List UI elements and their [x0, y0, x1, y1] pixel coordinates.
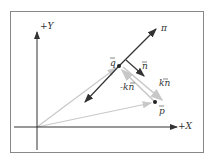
point-q [117, 64, 121, 68]
plane-line-up [119, 29, 156, 66]
minus-kn-label: -kn [120, 82, 134, 92]
x-axis-label: +X [178, 121, 193, 131]
plane-line-down [85, 66, 119, 102]
frame [11, 12, 204, 153]
plane-label: π [160, 23, 168, 33]
kn-label: kn [159, 78, 170, 88]
point-p [153, 100, 157, 104]
vector-origin-to-p [37, 103, 151, 127]
q-label: q [110, 58, 116, 68]
diagram-canvas: +Y +X π q n kn -kn p [0, 0, 209, 162]
y-axis-label: +Y [40, 21, 55, 31]
p-label: p [159, 106, 165, 116]
n-label: n [142, 61, 148, 71]
